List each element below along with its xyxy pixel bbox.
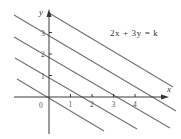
x-tick-label: 1	[69, 100, 73, 109]
line-k-3	[15, 58, 137, 129]
y-axis-label: y	[38, 7, 43, 17]
y-axis-arrow-icon	[47, 9, 52, 17]
x-tick-label: 4	[133, 100, 137, 109]
line-k-12	[49, 13, 173, 87]
y-tick-label: 2	[41, 50, 45, 59]
equation-label: 2x + 3y = k	[110, 28, 158, 38]
y-tick-label: 3	[41, 29, 45, 38]
y-tick-label: 1	[41, 72, 45, 81]
x-axis-label: x	[166, 84, 171, 94]
x-tick-label: 2	[90, 100, 94, 109]
origin-label: 0	[39, 101, 43, 110]
line-k-6	[14, 37, 170, 128]
level-lines-diagram: 1 2 3 4 1 2 3 0 x y 2x + 3y = k	[0, 0, 181, 139]
x-tick-label: 3	[112, 100, 116, 109]
diagram-canvas: 1 2 3 4 1 2 3 0 x y 2x + 3y = k	[0, 0, 181, 139]
x-axis-arrow-icon	[161, 95, 169, 100]
